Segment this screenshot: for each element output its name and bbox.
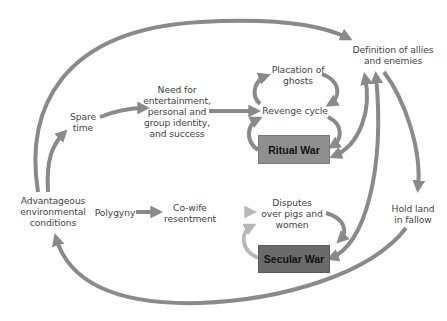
node-placation-line1: Placation of bbox=[262, 64, 334, 75]
node-hold-land-line2: in fallow bbox=[388, 214, 438, 225]
node-need-line1: Need for bbox=[142, 84, 212, 95]
node-spare-time: Spare time bbox=[66, 111, 100, 133]
node-definition-line1: Definition of allies bbox=[338, 44, 447, 55]
node-cowife: Co-wife resentment bbox=[164, 202, 216, 224]
node-polygyny: Polygyny bbox=[94, 207, 136, 218]
node-disputes-line2: over pigs and bbox=[256, 208, 328, 219]
node-spare-time-line1: Spare bbox=[66, 111, 100, 122]
node-placation-line2: ghosts bbox=[262, 75, 334, 86]
secular-war-label: Secular War bbox=[264, 253, 324, 265]
node-revenge-cycle: Revenge cycle bbox=[258, 105, 332, 116]
node-need-line5: and success bbox=[142, 128, 212, 139]
arrow-spare-time-to-need bbox=[100, 108, 145, 117]
arrow-ritual-to-revenge bbox=[249, 119, 258, 150]
node-polygyny-line1: Polygyny bbox=[94, 207, 136, 218]
node-advantageous-line3: conditions bbox=[18, 217, 88, 228]
node-need-line4: group identity, bbox=[142, 117, 212, 128]
node-need: Need for entertainment, personal and gro… bbox=[142, 84, 212, 139]
node-advantageous-line2: environmental bbox=[18, 206, 88, 217]
arrow-secular-definition bbox=[331, 76, 378, 258]
node-cowife-line1: Co-wife bbox=[164, 202, 216, 213]
node-disputes-line3: women bbox=[256, 219, 328, 230]
arrow-secular-to-disputes bbox=[244, 226, 258, 258]
ritual-war-box: Ritual War bbox=[258, 135, 330, 164]
node-revenge-line1: Revenge cycle bbox=[258, 105, 332, 116]
node-hold-land: Hold land in fallow bbox=[388, 203, 438, 225]
node-need-line3: personal and bbox=[142, 106, 212, 117]
ritual-war-label: Ritual War bbox=[268, 144, 320, 156]
arrow-advantageous-to-spare-time bbox=[48, 133, 64, 192]
node-cowife-line2: resentment bbox=[164, 213, 216, 224]
arrow-disputes-to-secular bbox=[326, 213, 344, 240]
node-advantageous: Advantageous environmental conditions bbox=[18, 195, 88, 228]
node-disputes-line1: Disputes bbox=[256, 197, 328, 208]
node-need-line2: entertainment, bbox=[142, 95, 212, 106]
node-hold-land-line1: Hold land bbox=[388, 203, 438, 214]
node-definition: Definition of allies and enemies bbox=[338, 44, 447, 66]
node-advantageous-line1: Advantageous bbox=[18, 195, 88, 206]
node-disputes: Disputes over pigs and women bbox=[256, 197, 328, 230]
node-placation: Placation of ghosts bbox=[262, 64, 334, 86]
node-spare-time-line2: time bbox=[66, 122, 100, 133]
node-definition-line2: and enemies bbox=[338, 55, 447, 66]
arrow-definition-to-hold-land bbox=[384, 72, 419, 188]
secular-war-box: Secular War bbox=[258, 245, 330, 273]
